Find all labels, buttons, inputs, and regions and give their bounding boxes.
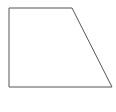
diagram-canvas <box>0 0 116 112</box>
trapezoid-shape <box>9 8 112 87</box>
